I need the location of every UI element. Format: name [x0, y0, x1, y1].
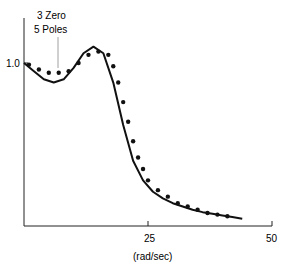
data-point	[215, 212, 219, 216]
data-point	[131, 139, 135, 143]
data-point	[76, 61, 80, 65]
data-point	[205, 211, 209, 215]
data-point	[106, 53, 110, 57]
data-point	[225, 214, 229, 218]
data-point	[66, 69, 70, 73]
y-tick-label-1.0: 1.0	[6, 58, 20, 69]
data-point	[126, 119, 130, 123]
data-point	[116, 80, 120, 84]
data-point	[37, 67, 41, 71]
data-point	[96, 49, 100, 53]
annotation-line-2: 5 Poles	[34, 24, 67, 35]
x-axis-label: (rad/sec)	[133, 251, 172, 262]
x-tick-label-50: 50	[266, 233, 278, 244]
data-point	[141, 167, 145, 171]
x-tick-label-25: 25	[144, 233, 156, 244]
data-point	[185, 204, 189, 208]
data-point	[156, 188, 160, 192]
data-point	[86, 53, 90, 57]
data-point	[146, 178, 150, 182]
data-point	[121, 100, 125, 104]
data-point	[57, 71, 61, 75]
annotation-line-1: 3 Zero	[37, 10, 66, 21]
data-point	[195, 208, 199, 212]
data-point	[166, 194, 170, 198]
data-point	[47, 71, 51, 75]
data-point	[111, 64, 115, 68]
data-point	[27, 62, 31, 66]
data-point	[136, 155, 140, 159]
chart: 3 Zero 5 Poles 1.0 25 50 (rad/sec)	[0, 0, 295, 272]
data-point	[176, 201, 180, 205]
